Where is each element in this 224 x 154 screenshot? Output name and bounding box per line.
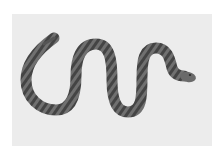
snake-body [26, 38, 184, 112]
snake-eye [189, 74, 191, 76]
snake-illustration [0, 0, 224, 154]
snake-photo [12, 14, 212, 146]
